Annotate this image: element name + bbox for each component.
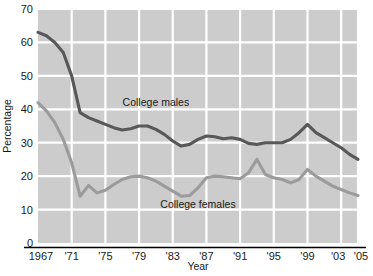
y-tick-label: 10 [21,204,33,216]
y-tick-label: 70 [21,3,33,15]
line-chart: 010203040506070 1967'71'75'79'83'87'91'9… [0,0,373,276]
x-tick-label: '99 [300,250,314,262]
x-tick-label: '95 [267,250,281,262]
series-label-college-females: College females [160,198,235,210]
y-axis-title: Percentage [1,99,13,153]
y-tick-label: 30 [21,137,33,149]
x-tick-label: '79 [132,250,146,262]
series-label-college-males: College males [123,96,190,108]
x-tick-label: '91 [233,250,247,262]
x-tick-label: '05 [354,250,368,262]
x-axis-title: Year [187,260,209,272]
y-tick-label: 0 [27,237,33,249]
y-tick-label: 20 [21,170,33,182]
chart-container: 010203040506070 1967'71'75'79'83'87'91'9… [0,0,373,276]
x-tick-label: '71 [65,250,79,262]
y-tick-label: 60 [21,36,33,48]
x-tick-label: '03 [331,250,345,262]
x-tick-label: '75 [98,250,112,262]
y-tick-label: 50 [21,70,33,82]
x-tick-label: 1967 [29,250,53,262]
x-tick-label: '83 [166,250,180,262]
y-tick-label: 40 [21,103,33,115]
